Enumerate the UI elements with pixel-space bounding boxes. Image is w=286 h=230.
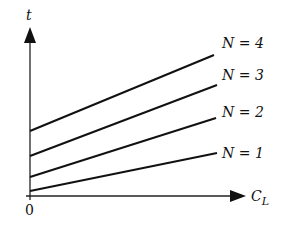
x-axis-arrow-icon — [230, 190, 246, 202]
label-n2: N = 2 — [221, 104, 264, 120]
label-n4: N = 4 — [221, 35, 264, 51]
label-n1-text: N = 1 — [221, 145, 264, 161]
label-n3-text: N = 3 — [221, 67, 264, 83]
label-n2-text: N = 2 — [221, 104, 264, 120]
x-axis-label-sub: L — [261, 195, 269, 208]
x-axis-label: CL — [251, 188, 269, 208]
origin-label: 0 — [25, 202, 34, 218]
chart: t CL 0 N = 4 N = 3 N = 2 N = 1 — [0, 0, 286, 230]
y-axis-label: t — [26, 7, 32, 23]
line-n2 — [30, 118, 216, 177]
line-n4 — [30, 55, 214, 131]
line-n3 — [30, 85, 217, 156]
label-n3: N = 3 — [221, 67, 264, 83]
label-n4-text: N = 4 — [221, 35, 264, 51]
x-axis-label-main: C — [251, 188, 262, 204]
line-n1 — [30, 153, 217, 191]
label-n1: N = 1 — [221, 145, 264, 161]
y-axis-arrow-icon — [24, 27, 36, 43]
